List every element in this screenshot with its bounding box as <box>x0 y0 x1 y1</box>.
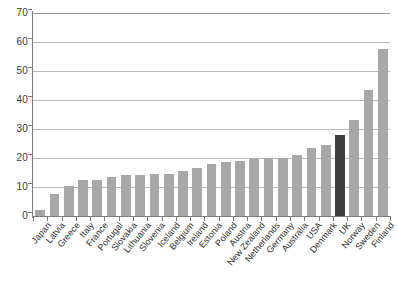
bar-germany <box>278 158 288 216</box>
bar-slot <box>35 13 45 216</box>
bar-lithuania <box>135 175 145 216</box>
y-axis-tick-label: 20 <box>2 153 28 163</box>
bar-italy <box>78 180 88 216</box>
bar-slot <box>249 13 259 216</box>
x-axis-tick <box>390 217 391 221</box>
y-axis-tick-label: 0 <box>2 211 28 221</box>
y-axis-tick-labels: 010203040506070 <box>0 0 28 281</box>
bar-slot <box>321 13 331 216</box>
bar-slot <box>50 13 60 216</box>
bar-belgium <box>178 171 188 216</box>
y-axis-tick <box>28 183 32 184</box>
y-axis-tick-label: 30 <box>2 124 28 134</box>
bar-estonia <box>207 164 217 216</box>
y-axis-tick <box>28 212 32 213</box>
bar-portugal <box>107 177 117 216</box>
bar-iceland <box>164 174 174 216</box>
bar-usa <box>307 148 317 216</box>
bar-poland <box>221 162 231 216</box>
bar-slot <box>178 13 188 216</box>
bar-australia <box>292 155 302 216</box>
y-axis-tick <box>28 67 32 68</box>
y-axis-tick-label: 70 <box>2 8 28 18</box>
bar-greece <box>64 186 74 216</box>
y-axis-tick <box>28 96 32 97</box>
bar-japan <box>35 210 45 216</box>
y-axis-tick <box>28 9 32 10</box>
y-axis-tick-label: 50 <box>2 66 28 76</box>
bar-slot <box>349 13 359 216</box>
bar-slot <box>278 13 288 216</box>
bar-slot <box>164 13 174 216</box>
bar-slot <box>264 13 274 216</box>
bar-france <box>92 180 102 216</box>
bar-slot <box>307 13 317 216</box>
y-axis-tick-label: 40 <box>2 95 28 105</box>
bar-slot <box>235 13 245 216</box>
bar-finland <box>378 49 388 216</box>
bar-chart: 010203040506070 JapanLatviaGreeceItalyFr… <box>0 0 398 281</box>
y-axis-tick <box>28 38 32 39</box>
bar-slot <box>64 13 74 216</box>
bar-slot <box>335 13 345 216</box>
y-axis-tick <box>28 125 32 126</box>
bar-denmark <box>321 145 331 216</box>
bar-austria <box>235 161 245 216</box>
bar-sweden <box>364 90 374 216</box>
bar-slot <box>378 13 388 216</box>
bar-slot <box>107 13 117 216</box>
bar-netherlands <box>264 158 274 216</box>
bar-slot <box>78 13 88 216</box>
bar-norway <box>349 120 359 216</box>
bar-slot <box>135 13 145 216</box>
bar-series <box>33 13 390 216</box>
y-axis-tick-label: 60 <box>2 37 28 47</box>
y-axis-tick <box>28 154 32 155</box>
bar-slot <box>207 13 217 216</box>
bar-new-zealand <box>249 159 259 216</box>
bar-slot <box>150 13 160 216</box>
bar-slot <box>292 13 302 216</box>
y-axis-tick-label: 10 <box>2 182 28 192</box>
bar-slot <box>121 13 131 216</box>
bar-latvia <box>50 194 60 216</box>
bar-ireland <box>192 168 202 216</box>
x-axis-category-labels: JapanLatviaGreeceItalyFrancePortugalSlov… <box>33 221 390 281</box>
bar-slot <box>221 13 231 216</box>
bar-slovenia <box>150 174 160 216</box>
bar-slot <box>192 13 202 216</box>
bar-slot <box>364 13 374 216</box>
bar-uk <box>335 135 345 216</box>
bar-slot <box>92 13 102 216</box>
bar-slovakia <box>121 175 131 216</box>
